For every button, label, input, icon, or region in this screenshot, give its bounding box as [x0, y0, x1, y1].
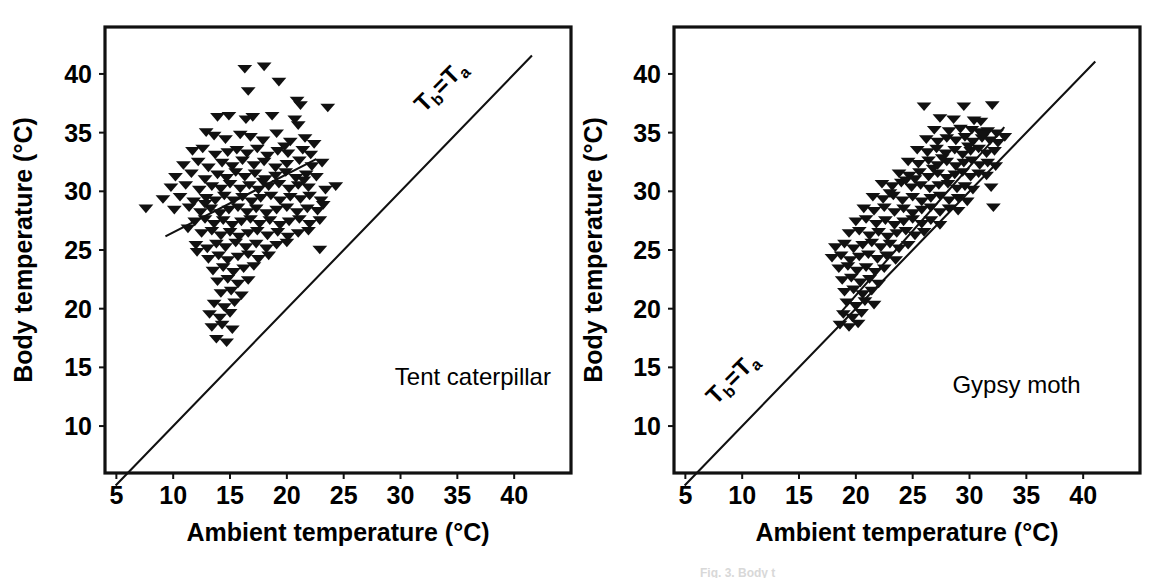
- scatter-marker: [218, 243, 233, 252]
- scatter-marker: [184, 169, 199, 178]
- scatter-marker: [917, 103, 932, 112]
- y-tick-label: 25: [64, 236, 92, 264]
- scatter-marker: [846, 245, 861, 254]
- x-tick-label: 25: [330, 481, 358, 509]
- scatter-marker: [292, 157, 307, 166]
- scatter-marker: [309, 173, 324, 182]
- y-tick-label: 40: [633, 60, 661, 88]
- scatter-points-left: [139, 63, 344, 347]
- y-tick-label: 30: [633, 177, 661, 205]
- series-label-gypsy-moth: Gypsy moth: [952, 371, 1080, 398]
- scatter-marker: [876, 195, 891, 204]
- y-axis-title-right: Body temperature (°C): [579, 117, 607, 383]
- scatter-marker: [951, 207, 966, 216]
- figure-two-panel-scatter: 510152025303540 10152025303540 Tent cate…: [0, 0, 1175, 578]
- x-tick-label: 10: [159, 481, 187, 509]
- scatter-marker: [933, 114, 948, 123]
- identity-line-label-right: Tb=Ta: [700, 346, 765, 411]
- scatter-marker: [210, 277, 225, 286]
- scatter-marker: [946, 115, 961, 124]
- y-tick-label: 20: [64, 295, 92, 323]
- scatter-marker: [919, 135, 934, 144]
- identity-line-left: [116, 56, 531, 484]
- scatter-marker: [867, 301, 882, 310]
- scatter-marker: [956, 103, 971, 112]
- scatter-marker: [301, 183, 316, 192]
- y-tick-label: 35: [64, 119, 92, 147]
- y-tick-label: 10: [633, 412, 661, 440]
- plot-svg-left: 510152025303540 10152025303540 Tent cate…: [0, 0, 587, 578]
- scatter-marker: [210, 113, 225, 122]
- scatter-marker: [948, 137, 963, 146]
- scatter-marker: [214, 289, 229, 298]
- x-tick-labels-right: 510152025303540: [678, 481, 1097, 509]
- plot-svg-right: 510152025303540 10152025303540 Gypsy mot…: [588, 0, 1175, 578]
- scatter-marker: [164, 183, 179, 192]
- x-axis-title-right: Ambient temperature (°C): [755, 518, 1058, 546]
- y-tick-label: 15: [633, 353, 661, 381]
- scatter-marker: [991, 139, 1006, 148]
- scatter-marker: [307, 140, 322, 149]
- identity-line-label-left: Tb=Ta: [408, 54, 473, 119]
- y-tick-label: 20: [633, 295, 661, 323]
- scatter-marker: [984, 183, 999, 192]
- y-tick-label: 40: [64, 60, 92, 88]
- scatter-marker: [303, 151, 318, 160]
- scatter-marker: [265, 112, 280, 121]
- scatter-marker: [986, 203, 1001, 212]
- x-tick-label: 15: [216, 481, 244, 509]
- scatter-marker: [246, 161, 261, 170]
- scatter-marker: [182, 203, 197, 212]
- scatter-marker: [176, 161, 191, 170]
- scatter-marker: [185, 147, 200, 156]
- scatter-marker: [204, 323, 219, 332]
- scatter-marker: [870, 255, 885, 264]
- y-tick-label: 30: [64, 177, 92, 205]
- scatter-marker: [167, 206, 182, 215]
- scatter-marker: [828, 243, 843, 252]
- scatter-marker: [867, 207, 882, 216]
- scatter-marker: [848, 218, 863, 227]
- y-tick-label: 15: [64, 353, 92, 381]
- scatter-marker: [256, 137, 271, 146]
- scatter-marker: [233, 185, 248, 194]
- scatter-marker: [318, 186, 333, 195]
- series-label-tent-caterpillar: Tent caterpillar: [395, 363, 551, 390]
- scatter-marker: [911, 160, 926, 169]
- x-tick-label: 20: [273, 481, 301, 509]
- cut-off-caption: Fig. 3. Body t: [700, 566, 1020, 578]
- x-tick-label: 15: [785, 481, 813, 509]
- scatter-marker: [206, 267, 221, 276]
- panel-tent-caterpillar: 510152025303540 10152025303540 Tent cate…: [0, 0, 587, 578]
- scatter-marker: [208, 151, 223, 160]
- plot-frame-right: [674, 27, 1140, 473]
- identity-line-right: [685, 62, 1094, 485]
- scatter-marker: [237, 65, 252, 74]
- scatter-marker: [192, 186, 207, 195]
- scatter-marker: [887, 221, 902, 230]
- scatter-marker: [842, 229, 857, 238]
- x-tick-label: 10: [728, 481, 756, 509]
- y-tick-label: 35: [633, 119, 661, 147]
- y-tick-label: 10: [64, 412, 92, 440]
- x-axis-title-left: Ambient temperature (°C): [186, 518, 489, 546]
- scatter-marker: [260, 232, 275, 241]
- scatter-marker: [293, 101, 308, 110]
- scatter-marker: [201, 255, 216, 264]
- scatter-marker: [985, 101, 1000, 110]
- scatter-marker: [312, 246, 327, 255]
- scatter-marker: [181, 225, 196, 234]
- scatter-marker: [156, 195, 171, 204]
- scatter-marker: [194, 229, 209, 238]
- y-tick-labels-right: 10152025303540: [633, 60, 661, 440]
- x-tick-label: 20: [842, 481, 870, 509]
- scatter-marker: [225, 326, 240, 335]
- plot-frame-left: [105, 27, 571, 473]
- scatter-marker: [251, 186, 266, 195]
- x-tick-label: 40: [1069, 481, 1097, 509]
- scatter-marker: [927, 126, 942, 135]
- y-tick-label: 25: [633, 236, 661, 264]
- scatter-marker: [269, 130, 284, 139]
- scatter-marker: [214, 232, 229, 241]
- scatter-marker: [237, 173, 252, 182]
